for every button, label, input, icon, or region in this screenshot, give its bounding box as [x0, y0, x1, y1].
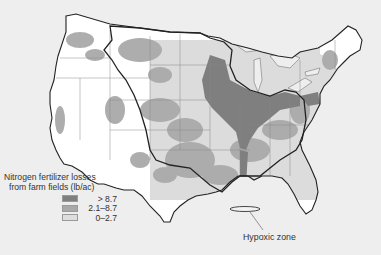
- legend-item-low: 0–2.7: [62, 213, 144, 223]
- hypoxic-zone: [230, 207, 263, 231]
- legend: Nitrogen fertilizer losses from farm fie…: [4, 172, 144, 223]
- legend-title: Nitrogen fertilizer losses from farm fie…: [4, 172, 144, 192]
- legend-label-medium: 2.1–8.7: [81, 203, 117, 213]
- legend-label-low: 0–2.7: [81, 213, 117, 223]
- legend-swatch-low: [62, 214, 78, 221]
- legend-item-high: > 8.7: [62, 194, 144, 204]
- hypoxic-zone-label: Hypoxic zone: [243, 232, 296, 242]
- legend-swatch-high: [62, 195, 78, 202]
- legend-title-line2: from farm fields (lb/ac): [4, 182, 144, 192]
- legend-item-medium: 2.1–8.7: [62, 204, 144, 214]
- legend-items: > 8.7 2.1–8.7 0–2.7: [62, 194, 144, 223]
- legend-title-line1: Nitrogen fertilizer losses: [4, 172, 144, 182]
- hypoxic-zone-leader-line: [250, 212, 263, 230]
- legend-label-high: > 8.7: [81, 194, 117, 204]
- hypoxic-zone-shape: [230, 207, 260, 212]
- legend-swatch-medium: [62, 205, 78, 212]
